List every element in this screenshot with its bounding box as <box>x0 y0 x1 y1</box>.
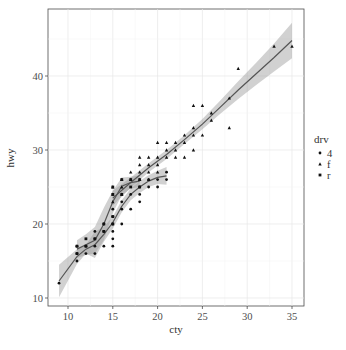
point-4 <box>93 252 96 255</box>
x-axis-ticks: 101520253035 <box>63 306 298 322</box>
point-r <box>120 178 123 181</box>
y-axis-ticks: 10203040 <box>33 71 49 304</box>
point-r <box>120 193 123 196</box>
point-4 <box>120 223 123 226</box>
point-r <box>129 186 132 189</box>
point-r <box>129 178 132 181</box>
point-r <box>102 223 105 226</box>
point-r <box>138 186 141 189</box>
point-r <box>85 237 88 240</box>
point-r <box>111 215 114 218</box>
y-tick-label: 20 <box>33 219 44 230</box>
legend: drv 4fr <box>314 133 333 181</box>
point-4 <box>138 200 141 203</box>
y-tick-label: 30 <box>33 145 44 156</box>
point-4 <box>93 230 96 233</box>
point-r <box>93 237 96 240</box>
point-4 <box>138 193 141 196</box>
point-4 <box>165 178 168 181</box>
point-4 <box>111 230 114 233</box>
point-4 <box>111 245 114 248</box>
point-4 <box>165 171 168 174</box>
point-4 <box>93 245 96 248</box>
y-tick-label: 10 <box>33 293 44 304</box>
point-4 <box>120 208 123 211</box>
legend-key-f <box>318 162 321 165</box>
legend-key-4 <box>319 152 322 155</box>
x-tick-label: 25 <box>197 311 208 322</box>
y-axis-title: hwy <box>4 148 16 167</box>
x-tick-label: 10 <box>63 311 74 322</box>
point-4 <box>156 178 159 181</box>
point-r <box>102 230 105 233</box>
point-r <box>85 245 88 248</box>
legend-title: drv <box>314 133 329 145</box>
point-4 <box>129 208 132 211</box>
legend-label-4: 4 <box>327 148 333 159</box>
legend-label-r: r <box>327 170 331 181</box>
point-r <box>76 245 79 248</box>
point-4 <box>111 237 114 240</box>
point-4 <box>120 200 123 203</box>
x-tick-label: 20 <box>152 311 163 322</box>
point-4 <box>147 186 150 189</box>
x-tick-label: 30 <box>242 311 253 322</box>
point-4 <box>129 193 132 196</box>
point-r <box>76 252 79 255</box>
x-tick-label: 15 <box>108 311 119 322</box>
point-r <box>111 223 114 226</box>
point-r <box>138 178 141 181</box>
x-axis-title: cty <box>169 323 183 335</box>
point-4 <box>85 252 88 255</box>
point-4 <box>102 245 105 248</box>
point-r <box>111 193 114 196</box>
x-tick-label: 35 <box>287 311 298 322</box>
y-tick-label: 40 <box>33 71 44 82</box>
point-4 <box>156 186 159 189</box>
point-r <box>111 186 114 189</box>
legend-key-r <box>319 174 322 177</box>
legend-label-f: f <box>327 159 331 170</box>
point-4 <box>76 260 79 263</box>
point-4 <box>111 208 114 211</box>
point-4 <box>58 282 61 285</box>
scatter-chart: 101520253035 10203040 cty hwy drv 4fr <box>0 0 346 350</box>
